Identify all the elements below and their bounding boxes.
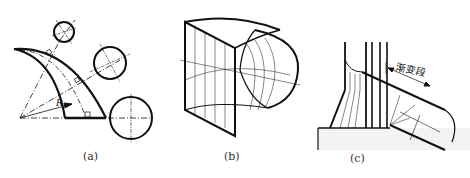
caption-a: (a) (83, 150, 98, 163)
radius-label: R (55, 98, 63, 108)
panel-b-drawing (180, 18, 300, 136)
caption-b: (b) (224, 150, 240, 163)
panel-c-drawing (318, 42, 470, 150)
caption-c: (c) (350, 152, 365, 165)
panel-a-drawing (14, 20, 152, 142)
